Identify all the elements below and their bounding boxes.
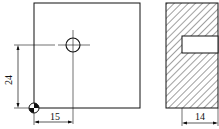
slot bbox=[182, 36, 218, 53]
technical-drawing: 24 15 14 bbox=[0, 0, 219, 129]
dim-label-24: 24 bbox=[3, 75, 14, 85]
front-view: 24 15 bbox=[3, 3, 140, 125]
dim-label-14: 14 bbox=[195, 111, 205, 122]
origin-symbol-icon bbox=[29, 103, 39, 113]
side-view: 14 bbox=[166, 3, 218, 126]
dim-label-15: 15 bbox=[50, 111, 60, 122]
